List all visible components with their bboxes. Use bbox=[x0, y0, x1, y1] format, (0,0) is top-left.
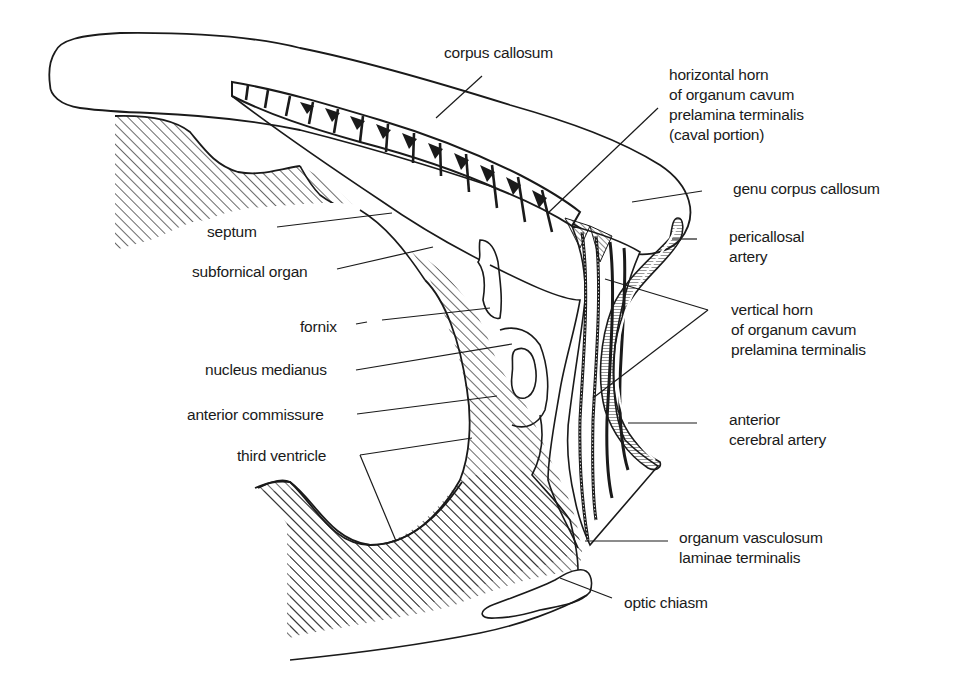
label-horizontal-horn: horizontal horn of organum cavum prelami… bbox=[669, 65, 804, 145]
label-pericallosal-artery: pericallosal artery bbox=[729, 227, 804, 267]
label-subfornical-organ: subfornical organ bbox=[192, 262, 308, 282]
label-nucleus-medianus: nucleus medianus bbox=[205, 360, 327, 380]
label-anterior-commissure: anterior commissure bbox=[187, 405, 324, 425]
anterior-commissure-shape bbox=[512, 348, 537, 398]
label-corpus-callosum: corpus callosum bbox=[444, 43, 553, 63]
label-third-ventricle: third ventricle bbox=[237, 446, 326, 466]
anatomical-diagram: corpus callosum horizontal horn of organ… bbox=[0, 0, 953, 685]
label-vertical-horn: vertical horn of organum cavum prelamina… bbox=[731, 300, 866, 360]
label-fornix: fornix bbox=[300, 317, 337, 337]
fornix-shape bbox=[478, 240, 501, 318]
label-genu-corpus-callosum: genu corpus callosum bbox=[733, 179, 880, 199]
label-anterior-cerebral-artery: anterior cerebral artery bbox=[729, 410, 826, 450]
label-septum: septum bbox=[207, 222, 257, 242]
label-organum-vasculosum: organum vasculosum laminae terminalis bbox=[679, 528, 823, 568]
label-optic-chiasm: optic chiasm bbox=[624, 593, 708, 613]
